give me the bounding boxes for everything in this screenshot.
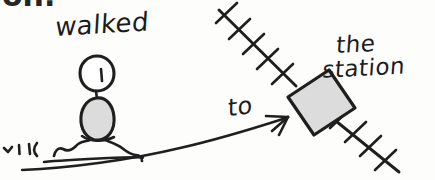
figure-face-mark — [101, 69, 102, 81]
figure-body — [81, 98, 114, 140]
railway-rail-upper — [219, 10, 296, 86]
motion-path-curve — [22, 118, 286, 170]
label-station-word: station — [322, 55, 406, 83]
label-the-station: thestation — [334, 30, 408, 82]
stick-figure-group — [54, 56, 142, 161]
edge-marks-group — [4, 143, 37, 156]
label-walked: walked — [54, 8, 150, 40]
motion-path-arrowhead — [266, 116, 288, 135]
figure-head — [80, 56, 114, 91]
sketch-canvas: on. — [0, 0, 435, 180]
label-to: to — [228, 93, 253, 121]
figure-leg-back — [54, 140, 90, 156]
